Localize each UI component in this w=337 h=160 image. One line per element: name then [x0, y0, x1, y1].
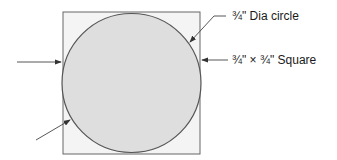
circle-label: ¾" Dia circle: [232, 9, 299, 23]
circle-shape: [62, 14, 201, 153]
diagram-canvas: [0, 0, 337, 160]
square-label: ¾" × ¾" Square: [232, 53, 316, 67]
